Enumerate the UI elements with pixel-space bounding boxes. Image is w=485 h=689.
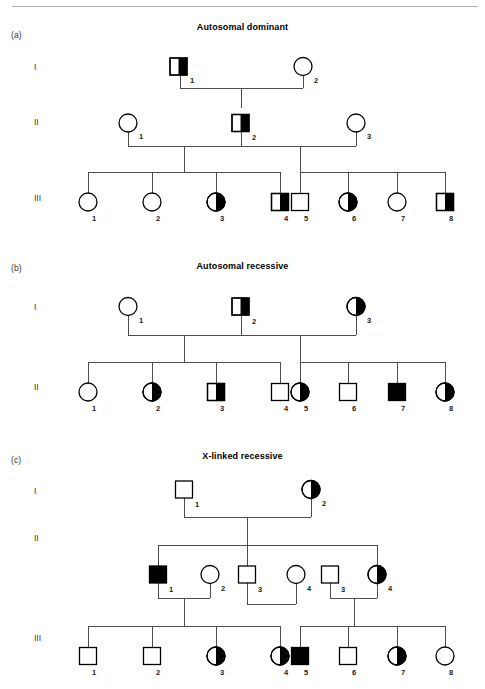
id-label: 1 — [92, 668, 96, 677]
symbols-c: 1 2 1 2 3 — [80, 481, 455, 678]
connector-lines-b — [88, 315, 445, 383]
individual-a-III-6[interactable]: 6 — [339, 193, 357, 223]
id-label: 1 — [139, 316, 143, 325]
individual-a-I-2[interactable]: 2 — [294, 58, 318, 86]
pedigree-graph-c: 1 2 1 2 3 — [0, 430, 485, 689]
id-label: 2 — [322, 499, 326, 508]
id-label: 1 — [92, 214, 96, 223]
individual-b-I-1[interactable]: 1 — [119, 298, 143, 326]
id-label: 2 — [156, 214, 160, 223]
id-label: 3 — [341, 585, 345, 594]
id-label: 1 — [190, 76, 194, 85]
id-label: 2 — [252, 317, 256, 326]
individual-c-III-2[interactable]: 2 — [144, 648, 161, 678]
individual-c-III-7[interactable]: 7 — [388, 647, 406, 677]
panel-autosomal-recessive: (b) Autosomal recessive I II — [0, 240, 485, 430]
individual-a-III-4[interactable]: 4 — [272, 194, 290, 224]
individual-a-II-2[interactable]: 2 — [232, 115, 256, 143]
id-label: 4 — [284, 214, 289, 223]
individual-b-II-5[interactable]: 5 — [291, 383, 309, 413]
individual-c-II-1[interactable]: 1 — [150, 566, 174, 594]
id-label: 2 — [221, 584, 225, 593]
individual-c-II-2[interactable]: 2 — [201, 566, 225, 594]
individual-c-II-4[interactable]: 4 — [287, 566, 312, 594]
id-label: 1 — [92, 404, 96, 413]
individual-c-II-3b[interactable]: 3 — [322, 566, 346, 594]
id-label: 3 — [258, 585, 262, 594]
individual-a-III-2[interactable]: 2 — [143, 193, 161, 223]
individual-a-II-3[interactable]: 3 — [347, 114, 371, 141]
individual-b-II-2[interactable]: 2 — [143, 383, 161, 413]
individual-b-II-7[interactable]: 7 — [389, 384, 406, 414]
individual-c-III-1[interactable]: 1 — [80, 648, 97, 678]
individual-b-II-4[interactable]: 4 — [272, 384, 290, 414]
id-label: 8 — [449, 668, 453, 677]
individual-b-II-1[interactable]: 1 — [79, 383, 97, 413]
id-label: 1 — [195, 500, 199, 509]
individual-b-I-3[interactable]: 3 — [347, 298, 371, 326]
id-label: 4 — [284, 668, 289, 677]
id-label: 1 — [139, 132, 143, 141]
id-label: 5 — [304, 214, 308, 223]
id-label: 8 — [449, 404, 453, 413]
id-label: 4 — [307, 584, 312, 593]
id-label: 3 — [367, 132, 371, 141]
individual-a-III-1[interactable]: 1 — [79, 193, 97, 223]
id-label: 2 — [314, 76, 318, 85]
id-label: 4 — [388, 584, 393, 593]
symbols-a: 1 2 1 2 3 — [79, 58, 454, 224]
symbols-b: 1 2 3 1 — [79, 298, 454, 414]
connector-lines-c — [88, 498, 445, 647]
id-label: 1 — [169, 585, 173, 594]
individual-a-I-1[interactable]: 1 — [170, 58, 194, 85]
id-label: 3 — [220, 404, 224, 413]
id-label: 6 — [352, 668, 356, 677]
id-label: 2 — [156, 404, 160, 413]
individual-c-I-2[interactable]: 2 — [302, 481, 326, 509]
panel-autosomal-dominant: (a) Autosomal dominant I II III — [0, 0, 485, 240]
individual-a-III-7[interactable]: 7 — [388, 193, 406, 223]
id-label: 6 — [352, 214, 356, 223]
individual-c-III-5[interactable]: 5 — [292, 648, 309, 678]
individual-c-III-8[interactable]: 8 — [436, 647, 454, 677]
individual-a-III-3[interactable]: 3 — [207, 193, 225, 223]
id-label: 3 — [367, 316, 371, 325]
id-label: 2 — [252, 133, 256, 142]
individual-b-II-6[interactable]: 6 — [340, 384, 357, 414]
id-label: 3 — [220, 214, 224, 223]
individual-c-II-4b[interactable]: 4 — [368, 566, 393, 594]
individual-a-II-1[interactable]: 1 — [119, 114, 143, 141]
individual-c-III-4[interactable]: 4 — [271, 647, 289, 677]
id-label: 5 — [304, 404, 308, 413]
pedigree-graph-a: 1 2 1 2 3 — [0, 0, 485, 240]
id-label: 8 — [449, 214, 453, 223]
individual-b-II-8[interactable]: 8 — [436, 383, 454, 413]
id-label: 5 — [304, 668, 308, 677]
individual-b-I-2[interactable]: 2 — [232, 298, 256, 326]
individual-b-II-3[interactable]: 3 — [208, 384, 225, 414]
individual-a-III-5[interactable]: 5 — [292, 194, 309, 224]
individual-c-I-1[interactable]: 1 — [176, 481, 200, 509]
pedigree-figure: (a) Autosomal dominant I II III — [0, 0, 485, 689]
pedigree-graph-b: 1 2 3 1 — [0, 240, 485, 430]
individual-c-III-3[interactable]: 3 — [207, 647, 225, 677]
id-label: 3 — [220, 668, 224, 677]
individual-c-II-3[interactable]: 3 — [239, 566, 263, 594]
id-label: 2 — [156, 668, 160, 677]
individual-a-III-8[interactable]: 8 — [437, 194, 454, 224]
id-label: 7 — [401, 404, 405, 413]
individual-c-III-6[interactable]: 6 — [340, 648, 357, 678]
panel-x-linked-recessive: (c) X-linked recessive I II III — [0, 430, 485, 689]
id-label: 4 — [284, 404, 289, 413]
id-label: 7 — [401, 214, 405, 223]
id-label: 6 — [352, 404, 356, 413]
id-label: 7 — [401, 668, 405, 677]
